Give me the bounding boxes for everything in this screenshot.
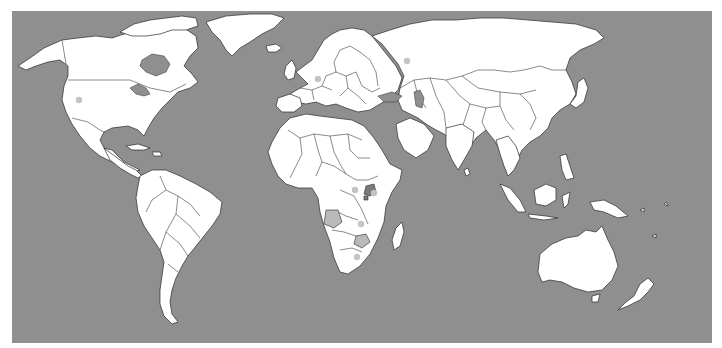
land-java bbox=[528, 214, 558, 220]
land-philippines bbox=[560, 154, 574, 180]
world-map[interactable] bbox=[12, 11, 712, 343]
world-map-svg bbox=[12, 11, 712, 343]
marker-southern-africa-1[interactable] bbox=[358, 221, 364, 227]
land-madagascar bbox=[392, 222, 404, 250]
marker-east-africa[interactable] bbox=[371, 190, 377, 196]
land-sri-lanka bbox=[464, 168, 470, 176]
country-rwanda bbox=[364, 196, 368, 200]
land-pacific-islands bbox=[640, 202, 668, 238]
land-cuba bbox=[126, 144, 150, 150]
land-africa bbox=[268, 114, 402, 274]
marker-south-africa[interactable] bbox=[354, 254, 360, 260]
land-australia bbox=[538, 226, 618, 292]
land-new-guinea bbox=[590, 200, 628, 218]
land-uk bbox=[284, 60, 296, 80]
land-sumatra bbox=[500, 184, 526, 212]
marker-central-europe[interactable] bbox=[315, 76, 321, 82]
land-india bbox=[446, 124, 474, 170]
land-new-zealand bbox=[618, 278, 654, 310]
land-borneo bbox=[534, 184, 556, 206]
land-central-america bbox=[104, 148, 142, 178]
land-north-america bbox=[18, 26, 198, 172]
land-hispaniola bbox=[152, 152, 162, 156]
marker-usa-west[interactable] bbox=[76, 97, 82, 103]
marker-russia[interactable] bbox=[404, 58, 410, 64]
marker-central-africa[interactable] bbox=[352, 187, 358, 193]
land-iceland bbox=[266, 44, 282, 52]
land-south-america bbox=[136, 170, 222, 324]
land-sulawesi bbox=[562, 192, 570, 208]
land-tasmania bbox=[592, 294, 600, 302]
